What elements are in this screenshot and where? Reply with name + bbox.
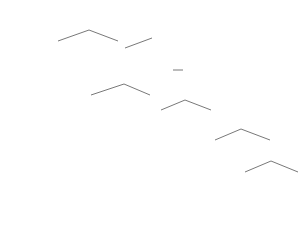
tree-branches	[0, 0, 303, 240]
